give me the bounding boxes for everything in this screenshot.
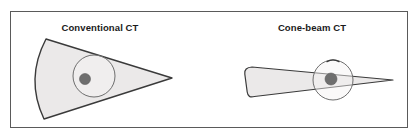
lesion-marker-cone-beam — [325, 73, 337, 85]
ct-comparison-diagram: Conventional CT Cone-beam CT — [0, 0, 418, 140]
panel-conventional-ct: Conventional CT — [35, 22, 172, 119]
figure-container: Conventional CT Cone-beam CT — [0, 0, 418, 140]
panel-title-cone-beam-ct: Cone-beam CT — [278, 22, 346, 33]
panel-title-conventional-ct: Conventional CT — [62, 22, 139, 33]
panel-cone-beam-ct: Cone-beam CT — [245, 22, 393, 100]
lesion-marker-conventional — [80, 74, 91, 85]
head-cross-section-conventional — [73, 55, 115, 97]
